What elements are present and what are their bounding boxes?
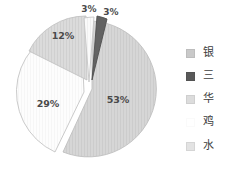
pie-svg: 53% 29% 12% 3% 3% (0, 0, 182, 171)
legend-label: 鸡 (203, 115, 214, 129)
legend-swatch-icon (186, 142, 195, 151)
legend-label: 银 (203, 46, 214, 60)
legend-item-1[interactable]: 三 (186, 69, 231, 83)
pie-label-3-a: 3% (81, 4, 96, 14)
pie-label-12: 12% (52, 30, 75, 41)
pie-label-3-b: 3% (103, 7, 118, 17)
legend-label: 三 (203, 69, 214, 83)
legend-label: 华 (203, 92, 214, 106)
pie-plot-area: 53% 29% 12% 3% 3% (0, 0, 182, 171)
legend-swatch-icon (186, 118, 195, 127)
legend-swatch-icon (186, 49, 195, 58)
chart-legend: 银 三 华 鸡 水 (186, 44, 231, 168)
legend-swatch-icon (186, 72, 195, 81)
legend-item-4[interactable]: 水 (186, 139, 231, 153)
legend-item-2[interactable]: 华 (186, 92, 231, 106)
pie-label-53: 53% (107, 94, 130, 105)
legend-item-0[interactable]: 银 (186, 46, 231, 60)
legend-label: 水 (203, 139, 214, 153)
legend-item-3[interactable]: 鸡 (186, 115, 231, 129)
pie-chart-figure: 53% 29% 12% 3% 3% 银 三 华 鸡 水 (0, 0, 231, 171)
legend-swatch-icon (186, 95, 195, 104)
pie-label-29: 29% (37, 98, 60, 109)
